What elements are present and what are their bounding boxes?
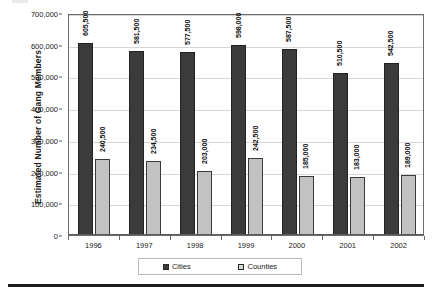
x-axis-category-tick bbox=[170, 236, 171, 240]
legend-item-cities: Cities bbox=[163, 262, 191, 271]
bar-cities-1996: 605,500 bbox=[78, 43, 93, 235]
y-axis-tick-mark bbox=[59, 204, 62, 205]
x-axis-category-tick bbox=[68, 236, 69, 240]
bar-value-label: 189,000 bbox=[404, 143, 411, 168]
bar-cities-2002: 542,500 bbox=[384, 63, 399, 235]
plot-frame: 605,500240,500581,500234,500577,500203,0… bbox=[68, 14, 424, 236]
y-axis-tick-mark bbox=[59, 45, 62, 46]
bottom-horizontal-rule bbox=[8, 284, 424, 287]
bar-value-label: 587,500 bbox=[286, 16, 293, 41]
bar-value-label: 577,500 bbox=[184, 20, 191, 45]
gridline bbox=[69, 142, 423, 143]
bar-counties-1999: 242,500 bbox=[248, 158, 263, 235]
plot-area: 605,500240,500581,500234,500577,500203,0… bbox=[69, 15, 423, 235]
bar-cities-1999: 598,000 bbox=[231, 45, 246, 235]
legend-swatch-cities-icon bbox=[163, 264, 169, 270]
y-axis-tick-labels: 0100,000200,000300,000400,000500,000600,… bbox=[14, 14, 62, 236]
x-axis-tick-label-2002: 2002 bbox=[390, 241, 407, 250]
x-axis-tick-label-1998: 1998 bbox=[187, 241, 204, 250]
bar-counties-2000: 185,000 bbox=[299, 176, 314, 235]
y-axis-tick-label: 700,000 bbox=[31, 10, 58, 19]
y-axis-tick-mark bbox=[59, 14, 62, 15]
gridline bbox=[69, 47, 423, 48]
bar-value-label: 242,500 bbox=[252, 126, 259, 151]
gridline bbox=[69, 110, 423, 111]
legend-item-counties: Counties bbox=[238, 262, 277, 271]
x-axis-category-tick bbox=[119, 236, 120, 240]
bar-cities-2001: 510,500 bbox=[333, 73, 348, 235]
bar-counties-2001: 183,000 bbox=[350, 177, 365, 235]
bar-value-label: 605,500 bbox=[82, 11, 89, 36]
bar-counties-2002: 189,000 bbox=[401, 175, 416, 235]
y-axis-tick-mark bbox=[59, 77, 62, 78]
bar-value-label: 183,000 bbox=[353, 145, 360, 170]
x-axis-category-tick bbox=[322, 236, 323, 240]
y-axis-tick-label: 200,000 bbox=[31, 168, 58, 177]
bar-chart-figure: Estimated Number of Gang Members 0100,00… bbox=[0, 0, 440, 297]
x-axis-tick-label-2001: 2001 bbox=[339, 241, 356, 250]
x-axis-category-tick bbox=[424, 236, 425, 240]
bar-value-label: 598,000 bbox=[235, 13, 242, 38]
bar-value-label: 203,000 bbox=[201, 138, 208, 163]
y-axis-tick-mark bbox=[59, 140, 62, 141]
x-axis-tick-label-2000: 2000 bbox=[289, 241, 306, 250]
y-axis-tick-label: 300,000 bbox=[31, 136, 58, 145]
bar-cities-1997: 581,500 bbox=[129, 51, 144, 235]
y-axis-tick-label: 500,000 bbox=[31, 73, 58, 82]
bar-counties-1997: 234,500 bbox=[146, 161, 161, 235]
bar-value-label: 240,500 bbox=[99, 126, 106, 151]
bar-value-label: 581,500 bbox=[133, 18, 140, 43]
bar-counties-1996: 240,500 bbox=[95, 159, 110, 235]
bar-value-label: 234,500 bbox=[150, 128, 157, 153]
gridline bbox=[69, 174, 423, 175]
gridline bbox=[69, 78, 423, 79]
legend-label-counties: Counties bbox=[247, 262, 277, 271]
y-axis-tick-mark bbox=[59, 109, 62, 110]
bar-value-label: 542,500 bbox=[387, 31, 394, 56]
x-axis-tick-label-1999: 1999 bbox=[238, 241, 255, 250]
gridline bbox=[69, 205, 423, 206]
y-axis-tick-mark bbox=[59, 172, 62, 173]
x-axis-baseline bbox=[69, 234, 423, 235]
x-axis-category-tick bbox=[271, 236, 272, 240]
y-axis-tick-label: 100,000 bbox=[31, 200, 58, 209]
y-axis-tick-label: 0 bbox=[54, 232, 58, 241]
x-axis-tick-label-1996: 1996 bbox=[85, 241, 102, 250]
y-axis-tick-mark bbox=[59, 236, 62, 237]
legend-swatch-counties-icon bbox=[238, 264, 244, 270]
bar-value-label: 185,000 bbox=[303, 144, 310, 169]
gridline bbox=[69, 15, 423, 16]
bar-counties-1998: 203,000 bbox=[197, 171, 212, 235]
legend-label-cities: Cities bbox=[172, 262, 191, 271]
y-axis-tick-label: 400,000 bbox=[31, 105, 58, 114]
y-axis-tick-label: 600,000 bbox=[31, 41, 58, 50]
x-axis-tick-label-1997: 1997 bbox=[136, 241, 153, 250]
bar-cities-2000: 587,500 bbox=[282, 49, 297, 235]
bar-value-label: 510,500 bbox=[336, 41, 343, 66]
bar-cities-1998: 577,500 bbox=[180, 52, 195, 235]
chart-legend: Cities Counties bbox=[138, 258, 302, 275]
x-axis-category-tick bbox=[373, 236, 374, 240]
x-axis-category-tick bbox=[221, 236, 222, 240]
